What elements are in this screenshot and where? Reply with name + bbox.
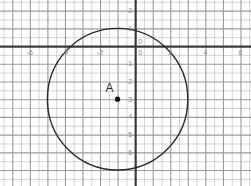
x-tick-label: -4: [62, 49, 68, 56]
plot-background: [0, 0, 251, 186]
x-tick-label: -2: [97, 49, 103, 56]
x-tick-label: 0: [138, 49, 142, 56]
x-tick-label: 4: [203, 49, 207, 56]
y-tick-label: 4: [128, 113, 132, 120]
y-tick-label: 2: [128, 78, 132, 85]
y-tick-label: 6: [128, 149, 132, 156]
x-tick-label: -6: [27, 49, 33, 56]
y-tick-label: 0: [138, 38, 142, 45]
x-tick-label: 2: [168, 49, 172, 56]
y-tick-label: 1: [128, 25, 132, 32]
y-tick-label: 2: [128, 7, 132, 14]
y-tick-label: 1: [128, 60, 132, 67]
graph-figure: -6-4-20246 210123456 A: [0, 0, 251, 186]
coordinate-plane: -6-4-20246 210123456 A: [0, 0, 251, 186]
y-tick-label: 5: [128, 131, 132, 138]
point-label-a: A: [106, 81, 114, 95]
y-tick-label: 3: [128, 96, 132, 103]
x-tick-label: 6: [239, 49, 243, 56]
point-marker-a: [115, 97, 120, 102]
